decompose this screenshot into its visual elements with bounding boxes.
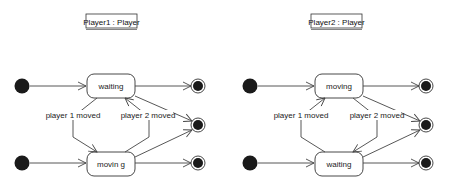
diagram-player1: Player1 : Player waiting movin g player … — [15, 14, 206, 176]
state-diagrams: Player1 : Player waiting movin g player … — [0, 0, 450, 186]
transition-label: player 1 moved — [46, 111, 101, 120]
state-label: movin g — [97, 160, 125, 169]
diagram-title: Player1 : Player — [83, 18, 140, 27]
initial-state-icon — [15, 79, 30, 94]
transition-label: player 2 moved — [121, 111, 176, 120]
state-label: waiting — [98, 82, 124, 91]
diagram-player2: Player2 : Player moving waiting player 1… — [243, 14, 434, 176]
transition-label: player 2 moved — [350, 111, 405, 120]
initial-state-icon — [15, 156, 30, 171]
initial-state-icon — [243, 156, 258, 171]
state-label: moving — [326, 82, 352, 91]
diagram-title: Player2 : Player — [308, 18, 365, 27]
transition-label: player 1 moved — [274, 111, 329, 120]
state-label: waiting — [326, 160, 352, 169]
initial-state-icon — [243, 79, 258, 94]
